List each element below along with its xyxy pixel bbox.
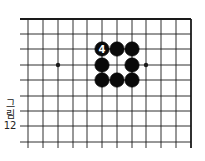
go-board-diagram: 4 [0, 0, 205, 161]
black-stone-numbered: 4 [95, 42, 109, 56]
caption-line-2: 림 [2, 109, 18, 120]
star-point [144, 63, 148, 67]
black-stone [125, 58, 139, 72]
black-stone [125, 42, 139, 56]
stone-body [125, 42, 139, 56]
black-stone [95, 58, 109, 72]
stone-body [110, 73, 124, 87]
stone-body [110, 42, 124, 56]
figure-caption: 그 림 12 [2, 98, 18, 131]
black-stone [95, 73, 109, 87]
stone-body [125, 58, 139, 72]
caption-line-1: 그 [2, 98, 18, 109]
black-stone [110, 73, 124, 87]
star-point [56, 63, 60, 67]
stone-move-number: 4 [99, 44, 106, 55]
caption-line-3: 12 [2, 120, 18, 131]
stone-body [95, 58, 109, 72]
stone-body [125, 73, 139, 87]
black-stone [110, 42, 124, 56]
black-stone [125, 73, 139, 87]
stone-body [95, 73, 109, 87]
